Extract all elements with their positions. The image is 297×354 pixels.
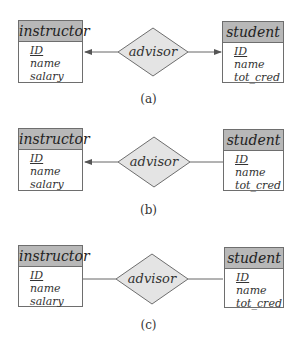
- entity-instructor-a: instructor ID name salary: [18, 20, 83, 83]
- figure-caption-c: (c): [0, 318, 297, 332]
- attribute: tot_cred: [235, 179, 283, 192]
- attribute: name: [236, 284, 283, 297]
- figure-caption-a: (a): [0, 92, 297, 106]
- entity-title: instructor: [19, 21, 82, 42]
- entity-title: instructor: [19, 246, 82, 267]
- entity-instructor-b: instructor ID name salary: [18, 128, 83, 191]
- relationship-label-a: advisor: [118, 44, 188, 59]
- attribute: name: [30, 282, 82, 295]
- attribute: name: [30, 165, 82, 178]
- attribute-primary-key: ID: [235, 153, 283, 166]
- attribute-primary-key: ID: [30, 152, 82, 165]
- entity-title: student: [223, 22, 283, 43]
- relationship-label-b: advisor: [119, 154, 189, 169]
- attribute-primary-key: ID: [30, 44, 82, 57]
- attribute-primary-key: ID: [236, 271, 283, 284]
- attribute-primary-key: ID: [234, 45, 283, 58]
- attribute: name: [30, 57, 82, 70]
- entity-title: student: [224, 130, 283, 151]
- attribute: name: [234, 58, 283, 71]
- attribute-primary-key: ID: [30, 269, 82, 282]
- entity-instructor-c: instructor ID name salary: [18, 245, 83, 307]
- figure-caption-b: (b): [0, 203, 297, 217]
- entity-title: student: [225, 248, 283, 269]
- attribute: tot_cred: [236, 297, 283, 310]
- entity-student-b: student ID name tot_cred: [223, 129, 284, 191]
- relationship-label-c: advisor: [117, 271, 187, 286]
- entity-student-c: student ID name tot_cred: [224, 247, 284, 308]
- attribute: salary: [30, 178, 82, 191]
- attribute: tot_cred: [234, 71, 283, 84]
- attribute: salary: [30, 70, 82, 83]
- entity-student-a: student ID name tot_cred: [222, 21, 284, 83]
- attribute: name: [235, 166, 283, 179]
- attribute: salary: [30, 295, 82, 308]
- entity-title: instructor: [19, 129, 82, 150]
